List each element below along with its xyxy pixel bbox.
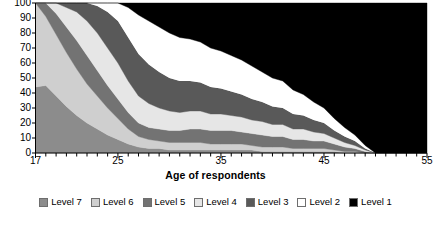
x-axis-tick-label: 35 — [206, 155, 236, 167]
legend-swatch-icon — [246, 198, 255, 207]
x-axis-title: Age of respondents — [0, 169, 431, 181]
legend-label: Level 1 — [361, 197, 392, 207]
legend-label: Level 4 — [206, 197, 237, 207]
legend-swatch-icon — [194, 198, 203, 207]
y-axis-tick-label: 70 — [5, 43, 31, 53]
legend-label: Level 5 — [155, 197, 186, 207]
y-axis-tick-label: 20 — [5, 118, 31, 128]
y-axis-tick-label: 90 — [5, 13, 31, 23]
legend-item[interactable]: Level 6 — [91, 197, 134, 207]
legend-swatch-icon — [349, 198, 358, 207]
area-series-group — [36, 3, 428, 153]
legend-item[interactable]: Level 1 — [349, 197, 392, 207]
y-axis-tick-label: 30 — [5, 103, 31, 113]
x-axis-tick-label: 45 — [309, 155, 339, 167]
legend-label: Level 2 — [309, 197, 340, 207]
legend-item[interactable]: Level 4 — [194, 197, 237, 207]
legend-item[interactable]: Level 5 — [143, 197, 186, 207]
legend-label: Level 7 — [51, 197, 82, 207]
chart-legend: Level 7Level 6Level 5Level 4Level 3Level… — [0, 197, 431, 207]
y-axis-tick-label: 80 — [5, 28, 31, 38]
y-axis-tick-label: 100 — [5, 0, 31, 8]
legend-label: Level 6 — [103, 197, 134, 207]
legend-swatch-icon — [91, 198, 100, 207]
y-axis-tick-label: 10 — [5, 133, 31, 143]
legend-swatch-icon — [297, 198, 306, 207]
legend-item[interactable]: Level 7 — [39, 197, 82, 207]
legend-item[interactable]: Level 2 — [297, 197, 340, 207]
legend-swatch-icon — [39, 198, 48, 207]
legend-item[interactable]: Level 3 — [246, 197, 289, 207]
legend-label: Level 3 — [258, 197, 289, 207]
y-axis-tick-label: 50 — [5, 73, 31, 83]
x-axis-tick-label: 17 — [21, 155, 51, 167]
y-axis-tick-labels: 0102030405060708090100 — [0, 0, 31, 160]
x-axis-tick-label: 25 — [103, 155, 133, 167]
legend-swatch-icon — [143, 198, 152, 207]
y-axis-tick-label: 60 — [5, 58, 31, 68]
y-axis-ticks — [32, 3, 36, 153]
plot-area: 0102030405060708090100 — [0, 0, 431, 166]
plot-svg — [0, 0, 431, 166]
y-axis-tick-label: 40 — [5, 88, 31, 98]
x-axis-tick-label: 55 — [412, 155, 437, 167]
